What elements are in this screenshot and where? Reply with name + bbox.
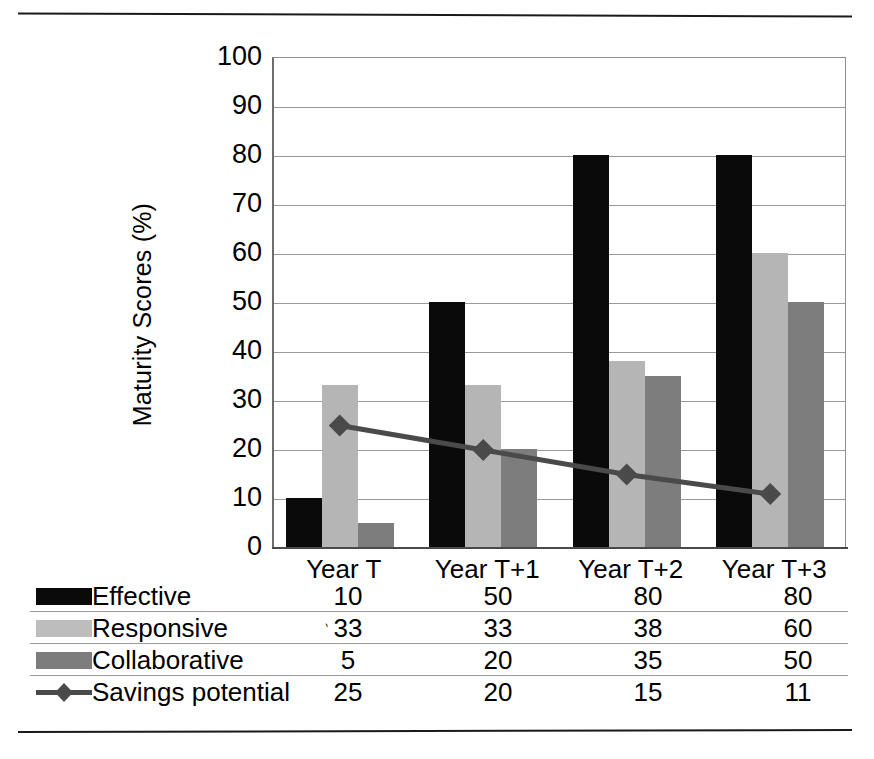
table-cell: 5 [273,645,423,676]
table-cell: 15 [573,677,723,708]
black-bar-swatch [36,588,92,605]
savings-potential-line [340,426,771,495]
y-tick-80: 80 [202,141,262,168]
y-tick-100: 100 [202,43,262,70]
table-cell: 33 [423,613,573,644]
y-axis-tick-labels: 1009080706050403020100 [196,30,262,560]
table-cell: 33 [273,613,423,644]
y-tick-40: 40 [202,337,262,364]
table-row-label: Responsive [92,613,228,644]
table-cell: 25 [273,677,423,708]
table-row: Effective10508080 [30,580,848,611]
y-tick-90: 90 [202,92,262,119]
bar-line-combo-chart: Maturity Scores (%) 10090807060504030201… [0,30,874,560]
y-tick-50: 50 [202,288,262,315]
table-cell: 80 [573,581,723,612]
y-tick-10: 10 [202,484,262,511]
table-cell: 11 [723,677,873,708]
savings-marker-yeart1 [472,439,494,461]
bottom-horizontal-rule [18,729,852,733]
table-cell: 50 [423,581,573,612]
y-tick-0: 0 [202,533,262,560]
table-cell: 35 [573,645,723,676]
medium-gray-bar-swatch [36,652,92,669]
light-gray-bar-swatch [36,620,92,637]
y-tick-70: 70 [202,190,262,217]
line-marker-swatch [36,682,92,703]
table-cell: 50 [723,645,873,676]
table-cell: 38 [573,613,723,644]
savings-marker-yeart3 [759,483,781,505]
y-tick-30: 30 [202,386,262,413]
table-cell: 60 [723,613,873,644]
y-tick-20: 20 [202,435,262,462]
table-row-label: Collaborative [92,645,244,676]
table-cell: 10 [273,581,423,612]
table-row: Collaborative5203550 [30,643,848,675]
savings-marker-yeart2 [616,464,638,486]
data-table: Effective10508080Responsive`33333860Coll… [30,580,848,707]
table-row: Responsive`33333860 [30,611,848,643]
y-tick-60: 60 [202,239,262,266]
savings-potential-line-layer [274,58,848,548]
x-axis-line [272,547,848,549]
table-row-label: Savings potential [92,677,290,708]
chart-page: Maturity Scores (%) 10090807060504030201… [0,0,874,759]
table-cell: 20 [423,677,573,708]
table-row-label: Effective [92,581,191,612]
y-axis-label: Maturity Scores (%) [128,150,157,480]
plot-area [272,57,846,547]
top-horizontal-rule [18,12,852,17]
table-row: Savings potential25201511 [30,675,848,707]
savings-marker-yeart [329,415,351,437]
table-cell: 20 [423,645,573,676]
table-cell: 80 [723,581,873,612]
